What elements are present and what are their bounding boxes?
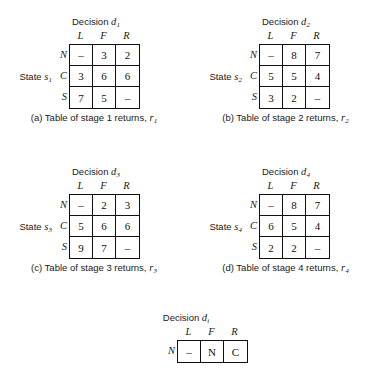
caption-b: (b) Table of stage 2 returns, r2 xyxy=(198,112,373,127)
row-header-c-a: C xyxy=(53,65,67,86)
row-header-s-a: S xyxy=(53,86,67,107)
decision-subscript-b: 2 xyxy=(306,21,310,29)
decision-title-d: Decision d4 xyxy=(216,166,356,181)
decision-subscript-d: 4 xyxy=(306,171,310,179)
caption-d: (d) Table of stage 4 returns, r4 xyxy=(198,262,373,277)
state-subscript-c: 3 xyxy=(48,226,52,234)
decision-title-c: Decision d3 xyxy=(26,166,166,181)
table-cell: 6 xyxy=(93,66,116,87)
returns-grid-d: – 8 7 6 5 4 2 2 – xyxy=(259,194,330,259)
returns-grid-b: – 8 7 5 5 4 3 2 – xyxy=(259,44,330,109)
decision-title-prefix-d: Decision xyxy=(262,166,301,177)
table-cell: 2 xyxy=(116,45,139,66)
table-cell: – xyxy=(116,87,139,108)
table-cell: 8 xyxy=(283,45,306,66)
table-cell: 5 xyxy=(283,66,306,87)
column-header-r-c: R xyxy=(115,180,138,192)
row-header-n-generic: N xyxy=(161,340,175,361)
table-cell: 4 xyxy=(306,216,329,237)
table-cell: C xyxy=(224,341,247,362)
row-header-c-b: C xyxy=(243,65,257,86)
column-header-l-a: L xyxy=(69,30,92,42)
column-header-r-generic: R xyxy=(223,326,246,338)
caption-a: (a) Table of stage 1 returns, r1 xyxy=(8,112,180,127)
table-cell: 9 xyxy=(70,237,93,258)
caption-subscript-b: 2 xyxy=(345,117,349,125)
caption-text-d: (d) Table of stage 4 returns, xyxy=(222,262,341,273)
decision-title-generic: Decision di xyxy=(116,312,256,327)
table-cell: – xyxy=(116,237,139,258)
row-header-s-c: S xyxy=(53,236,67,257)
table-cell: 2 xyxy=(93,195,116,216)
state-subscript-b: 2 xyxy=(238,76,242,84)
table-cell: 5 xyxy=(70,216,93,237)
row-header-s-b: S xyxy=(243,86,257,107)
caption-text-b: (b) Table of stage 2 returns, xyxy=(222,112,341,123)
table-cell: 8 xyxy=(283,195,306,216)
decision-title-prefix-a: Decision xyxy=(72,16,111,27)
table-cell: 3 xyxy=(116,195,139,216)
column-header-f-b: F xyxy=(282,30,305,42)
column-header-l-d: L xyxy=(259,180,282,192)
column-header-r-a: R xyxy=(115,30,138,42)
state-label-prefix-b: State xyxy=(209,71,234,82)
state-label-prefix-a: State xyxy=(19,71,44,82)
state-subscript-a: 1 xyxy=(48,76,52,84)
table-cell: N xyxy=(201,341,224,362)
column-header-l-generic: L xyxy=(177,326,200,338)
caption-c: (c) Table of stage 3 returns, r3 xyxy=(8,262,180,277)
state-label-c: State s3 xyxy=(8,221,52,236)
table-cell: 6 xyxy=(116,66,139,87)
table-cell: – xyxy=(70,195,93,216)
column-headers-b: L F R xyxy=(259,30,328,42)
table-cell: 3 xyxy=(93,45,116,66)
state-label-prefix-d: State xyxy=(209,221,234,232)
table-cell: 6 xyxy=(116,216,139,237)
caption-subscript-c: 3 xyxy=(153,267,157,275)
table-cell: 5 xyxy=(283,216,306,237)
row-header-n-c: N xyxy=(53,194,67,215)
decision-title-a: Decision d1 xyxy=(26,16,166,31)
row-header-n-a: N xyxy=(53,44,67,65)
column-headers-a: L F R xyxy=(69,30,138,42)
column-headers-generic: L F R xyxy=(177,326,246,338)
table-cell: 5 xyxy=(93,87,116,108)
row-header-n-b: N xyxy=(243,44,257,65)
decision-title-prefix-c: Decision xyxy=(72,166,111,177)
returns-grid-generic: – N C xyxy=(177,340,248,363)
table-cell: 6 xyxy=(260,216,283,237)
decision-title-prefix-b: Decision xyxy=(262,16,301,27)
table-cell: 2 xyxy=(260,237,283,258)
row-headers-b: N C S xyxy=(243,44,257,107)
table-cell: 2 xyxy=(283,87,306,108)
column-header-f-generic: F xyxy=(200,326,223,338)
table-cell: 6 xyxy=(93,216,116,237)
caption-text-a: (a) Table of stage 1 returns, xyxy=(31,112,150,123)
table-cell: – xyxy=(260,45,283,66)
state-label-a: State s1 xyxy=(8,71,52,86)
table-cell: 7 xyxy=(93,237,116,258)
table-cell: 5 xyxy=(260,66,283,87)
table-cell: 7 xyxy=(70,87,93,108)
decision-subscript-c: 3 xyxy=(116,171,120,179)
column-header-r-b: R xyxy=(305,30,328,42)
table-cell: 4 xyxy=(306,66,329,87)
returns-grid-a: – 3 2 3 6 6 7 5 – xyxy=(69,44,140,109)
table-cell: 7 xyxy=(306,45,329,66)
table-cell: – xyxy=(70,45,93,66)
table-cell: – xyxy=(306,87,329,108)
column-header-f-d: F xyxy=(282,180,305,192)
state-subscript-d: 4 xyxy=(238,226,242,234)
decision-title-b: Decision d2 xyxy=(216,16,356,31)
row-headers-c: N C S xyxy=(53,194,67,257)
caption-subscript-a: 1 xyxy=(154,117,158,125)
row-headers-a: N C S xyxy=(53,44,67,107)
state-label-d: State s4 xyxy=(198,221,242,236)
row-header-n-d: N xyxy=(243,194,257,215)
column-header-l-c: L xyxy=(69,180,92,192)
row-header-c-c: C xyxy=(53,215,67,236)
column-header-l-b: L xyxy=(259,30,282,42)
returns-grid-c: – 2 3 5 6 6 9 7 – xyxy=(69,194,140,259)
column-headers-d: L F R xyxy=(259,180,328,192)
table-cell: – xyxy=(260,195,283,216)
